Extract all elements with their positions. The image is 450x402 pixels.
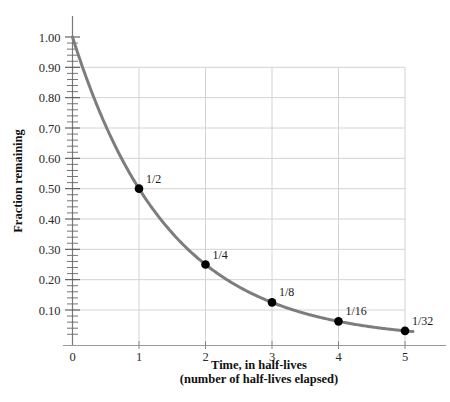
x-axis-tick-label: 1 [136,350,142,364]
x-axis-tick-label: 0 [69,350,75,364]
gridlines [73,67,406,345]
y-axis-tick-label: 0.70 [39,122,61,136]
data-point [268,298,277,307]
data-point-label: 1/16 [346,304,367,318]
y-axis-tick-label: 0.10 [39,304,61,318]
data-point-label: 1/32 [412,314,433,328]
y-axis-tick-label: 0.60 [39,152,61,166]
x-axis-tick-label: 5 [402,350,408,364]
y-axis-tick-label: 0.20 [39,273,61,287]
y-axis-tick-label: 0.90 [39,61,61,75]
data-point-label: 1/2 [146,172,161,186]
y-axis-tick-label: 0.40 [39,213,61,227]
data-point [201,260,210,269]
decay-curve [73,37,413,332]
data-point-label: 1/4 [213,248,228,262]
x-axis-subtitle: (number of half-lives elapsed) [180,372,338,386]
y-axis-title: Fraction remaining [11,128,25,232]
data-point [135,184,144,193]
y-axis-tick-labels: 0.100.200.300.400.500.600.700.800.901.00 [39,31,61,318]
y-axis-tick-label: 0.80 [39,91,61,105]
data-point [334,317,343,326]
x-axis-tick-label: 4 [335,350,342,364]
y-axis-tick-label: 1.00 [39,31,61,45]
x-axis-title: Time, in half-lives [211,358,307,372]
data-point [401,327,410,336]
y-axis-tick-label: 0.30 [39,243,61,257]
chart-svg: 0.100.200.300.400.500.600.700.800.901.00… [0,0,450,402]
data-point-label: 1/8 [279,285,294,299]
x-axis-tick-label: 2 [202,350,208,364]
y-axis-tick-label: 0.50 [39,182,61,196]
half-life-decay-chart: 0.100.200.300.400.500.600.700.800.901.00… [0,0,450,402]
